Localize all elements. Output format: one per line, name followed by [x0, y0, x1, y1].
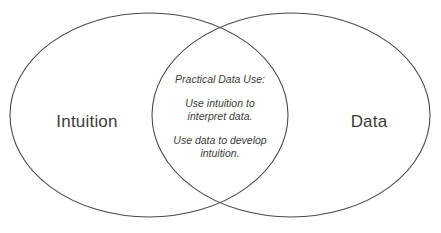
intersection-block: Use intuition to interpret data.	[145, 97, 295, 123]
intersection-line: interpret data.	[145, 110, 295, 123]
venn-label-left: Intuition	[56, 112, 117, 132]
venn-label-right: Data	[351, 112, 388, 132]
intersection-line: Use data to develop	[145, 134, 295, 147]
intersection-line: Use intuition to	[145, 97, 295, 110]
venn-intersection-text: Practical Data Use: Use intuition to int…	[145, 73, 295, 160]
intersection-heading: Practical Data Use:	[145, 73, 295, 86]
intersection-block: Use data to develop intuition.	[145, 134, 295, 160]
venn-diagram: Intuition Data Practical Data Use: Use i…	[0, 0, 441, 233]
intersection-line: intuition.	[145, 147, 295, 160]
